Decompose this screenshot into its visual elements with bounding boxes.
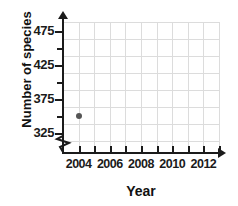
- y-axis-tick-label: 325: [6, 125, 54, 140]
- gridline-vertical: [125, 22, 126, 150]
- gridline-vertical: [219, 22, 220, 150]
- y-axis-tick-label: 475: [6, 23, 54, 38]
- x-axis-tick: [188, 146, 190, 152]
- x-axis-tick: [172, 146, 174, 152]
- gridline-vertical: [203, 22, 204, 150]
- y-axis-tick-label: 375: [6, 91, 54, 106]
- x-axis-tick: [79, 146, 81, 152]
- y-axis-tick-major: [55, 65, 63, 67]
- x-axis-tick: [157, 146, 159, 152]
- y-axis-tick: [57, 82, 63, 84]
- x-axis-title: Year: [63, 183, 219, 199]
- x-axis-tick: [125, 146, 127, 152]
- y-axis-tick-major: [55, 99, 63, 101]
- y-axis-tick-label: 425: [6, 57, 54, 72]
- x-axis-tick: [110, 146, 112, 152]
- y-axis-tick-major: [55, 133, 63, 135]
- data-point[interactable]: [76, 113, 82, 119]
- plot-area: [63, 22, 219, 150]
- gridline-vertical: [157, 22, 158, 150]
- gridline-vertical: [79, 22, 80, 150]
- gridline-vertical: [110, 22, 111, 150]
- y-axis-tick: [57, 48, 63, 50]
- scatter-chart: Number of species Year 47542537532520042…: [0, 0, 238, 206]
- x-axis-tick: [219, 146, 221, 152]
- x-axis-tick: [141, 146, 143, 152]
- y-axis-arrow-icon: [58, 11, 68, 19]
- gridline-vertical: [188, 22, 189, 150]
- gridline-vertical: [94, 22, 95, 150]
- x-axis-line: [62, 152, 219, 154]
- gridline-vertical: [172, 22, 173, 150]
- y-axis-tick: [57, 116, 63, 118]
- x-axis-tick: [203, 146, 205, 152]
- x-axis-tick: [94, 146, 96, 152]
- x-axis-tick-label: 2012: [181, 157, 225, 171]
- gridline-vertical: [141, 22, 142, 150]
- y-axis-tick-major: [55, 31, 63, 33]
